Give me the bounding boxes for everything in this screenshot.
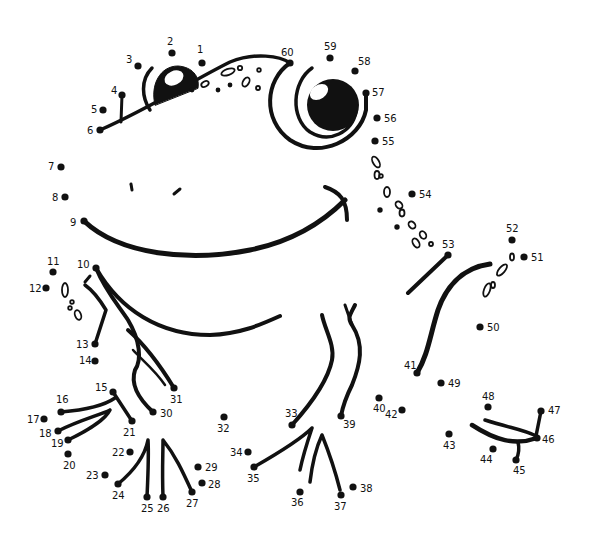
dot-42[interactable]: 42	[385, 406, 406, 420]
dot-38[interactable]: 38	[349, 483, 372, 494]
dot-marker[interactable]	[326, 54, 333, 61]
dot-marker[interactable]	[54, 427, 61, 434]
dot-marker[interactable]	[188, 488, 195, 495]
dot-52[interactable]: 52	[506, 223, 519, 244]
dot-6[interactable]: 6	[87, 125, 104, 136]
dot-marker[interactable]	[398, 406, 405, 413]
dot-13[interactable]: 13	[76, 339, 99, 350]
dot-marker[interactable]	[250, 463, 257, 470]
dot-marker[interactable]	[351, 67, 358, 74]
dot-46[interactable]: 46	[533, 434, 554, 445]
dot-marker[interactable]	[296, 488, 303, 495]
dot-marker[interactable]	[445, 430, 452, 437]
dot-marker[interactable]	[520, 253, 527, 260]
dot-28[interactable]: 28	[198, 479, 220, 490]
dot-marker[interactable]	[489, 445, 496, 452]
dot-26[interactable]: 26	[157, 493, 170, 514]
dot-marker[interactable]	[49, 268, 56, 275]
dot-40[interactable]: 40	[373, 394, 386, 414]
dot-marker[interactable]	[371, 137, 378, 144]
dot-30[interactable]: 30	[149, 408, 172, 419]
dot-10[interactable]: 10	[77, 259, 100, 272]
dot-marker[interactable]	[244, 448, 251, 455]
dot-19[interactable]: 19	[51, 436, 72, 449]
dot-33[interactable]: 33	[285, 408, 298, 429]
dot-21[interactable]: 21	[123, 417, 136, 438]
dot-marker[interactable]	[168, 49, 175, 56]
dot-marker[interactable]	[40, 415, 47, 422]
dot-marker[interactable]	[444, 251, 451, 258]
dot-20[interactable]: 20	[63, 450, 76, 471]
dot-marker[interactable]	[198, 59, 205, 66]
dot-marker[interactable]	[114, 480, 121, 487]
dot-marker[interactable]	[101, 471, 108, 478]
dot-48[interactable]: 48	[482, 391, 495, 411]
dot-58[interactable]: 58	[351, 56, 370, 75]
dot-44[interactable]: 44	[480, 445, 497, 465]
dot-39[interactable]: 39	[337, 412, 355, 430]
dot-51[interactable]: 51	[520, 252, 543, 263]
dot-marker[interactable]	[476, 323, 483, 330]
dot-marker[interactable]	[149, 408, 156, 415]
dot-marker[interactable]	[57, 408, 64, 415]
dot-marker[interactable]	[61, 193, 68, 200]
dot-marker[interactable]	[126, 448, 133, 455]
dot-marker[interactable]	[143, 493, 150, 500]
dot-31[interactable]: 31	[170, 384, 183, 405]
dot-49[interactable]: 49	[437, 378, 460, 389]
dot-4[interactable]: 4	[111, 85, 126, 99]
dot-50[interactable]: 50	[476, 322, 499, 333]
dot-11[interactable]: 11	[47, 256, 60, 276]
dot-43[interactable]: 43	[443, 430, 456, 451]
dot-27[interactable]: 27	[186, 488, 199, 509]
dot-14[interactable]: 14	[79, 355, 99, 366]
dot-marker[interactable]	[128, 417, 135, 424]
dot-marker[interactable]	[109, 388, 116, 395]
dot-53[interactable]: 53	[442, 239, 455, 259]
dot-marker[interactable]	[512, 456, 519, 463]
dot-59[interactable]: 59	[324, 41, 337, 62]
dot-5[interactable]: 5	[91, 104, 107, 115]
dot-29[interactable]: 29	[194, 462, 217, 473]
dot-marker[interactable]	[170, 384, 177, 391]
dot-17[interactable]: 17	[27, 414, 48, 425]
dot-57[interactable]: 57	[362, 87, 384, 98]
dot-marker[interactable]	[362, 89, 369, 96]
dot-marker[interactable]	[194, 463, 201, 470]
dot-36[interactable]: 36	[291, 488, 304, 508]
dot-marker[interactable]	[508, 236, 515, 243]
dot-37[interactable]: 37	[334, 491, 347, 512]
dot-marker[interactable]	[99, 106, 106, 113]
dot-15[interactable]: 15	[95, 382, 117, 396]
dot-marker[interactable]	[159, 493, 166, 500]
dot-marker[interactable]	[337, 491, 344, 498]
dot-marker[interactable]	[484, 403, 491, 410]
dot-marker[interactable]	[408, 190, 415, 197]
dot-marker[interactable]	[118, 91, 125, 98]
dot-56[interactable]: 56	[373, 113, 396, 124]
dot-marker[interactable]	[349, 483, 356, 490]
dot-34[interactable]: 34	[230, 447, 252, 458]
dot-marker[interactable]	[198, 479, 205, 486]
dot-marker[interactable]	[373, 114, 380, 121]
dot-3[interactable]: 3	[126, 54, 142, 70]
dot-marker[interactable]	[134, 62, 141, 69]
dot-32[interactable]: 32	[217, 413, 230, 434]
dot-marker[interactable]	[375, 394, 382, 401]
dot-8[interactable]: 8	[52, 192, 69, 203]
dot-54[interactable]: 54	[408, 189, 431, 200]
dot-9[interactable]: 9	[70, 217, 88, 228]
dot-marker[interactable]	[42, 284, 49, 291]
dot-45[interactable]: 45	[512, 456, 525, 476]
dot-marker[interactable]	[64, 436, 71, 443]
dot-marker[interactable]	[91, 357, 98, 364]
dot-marker[interactable]	[57, 163, 64, 170]
dot-marker[interactable]	[437, 379, 444, 386]
dot-marker[interactable]	[220, 413, 227, 420]
dot-7[interactable]: 7	[48, 161, 65, 172]
dot-marker[interactable]	[64, 450, 71, 457]
dot-25[interactable]: 25	[141, 493, 154, 514]
dot-marker[interactable]	[96, 126, 103, 133]
dot-2[interactable]: 2	[167, 36, 176, 57]
dot-60[interactable]: 60	[281, 47, 294, 67]
